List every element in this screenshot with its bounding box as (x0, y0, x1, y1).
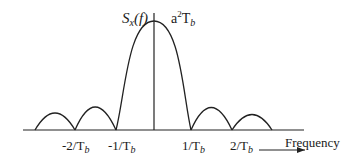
side-lobe-left-inner (75, 107, 116, 130)
y-axis-label: Sx(f) (122, 10, 148, 28)
side-lobe-left-outer (35, 113, 75, 130)
tick-label-neg1: -1/Tb (108, 138, 135, 155)
psd-plot: Sx(f) a2Tb -2/Tb -1/Tb 1/Tb 2/Tb Frequen… (0, 0, 363, 160)
x-axis-label: Frequency (285, 135, 340, 150)
tick-label-neg2: -2/Tb (62, 138, 89, 155)
tick-label-pos1: 1/Tb (182, 138, 205, 155)
peak-label: a2Tb (171, 9, 195, 28)
psd-figure: Sx(f) a2Tb -2/Tb -1/Tb 1/Tb 2/Tb Frequen… (0, 0, 363, 160)
side-lobe-right-inner (191, 108, 232, 131)
side-lobe-right-outer (232, 115, 272, 131)
tick-label-pos2: 2/Tb (230, 138, 253, 155)
